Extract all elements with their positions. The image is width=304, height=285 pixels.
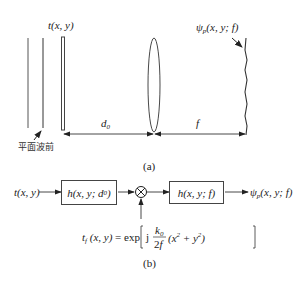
input-label-a: t(x, y) [48, 20, 74, 31]
wavefront-pointer-arrow [34, 131, 41, 140]
caption-b: (b) [143, 258, 156, 269]
lens-function-lhs: tf (x, y) = exp [82, 232, 140, 245]
output-label-b: ψp(x, y; f) [250, 187, 292, 200]
lens-function-j: j [146, 232, 149, 243]
distance-d0-label: d0 [101, 118, 110, 131]
distance-f-label: f [196, 118, 199, 129]
fraction-numerator: k0 [155, 225, 163, 238]
input-label-b: t(x, y) [14, 187, 40, 198]
block-propagation-f: h(x, y; f) [169, 181, 224, 204]
wavefront-label: 平面波前 [18, 143, 54, 152]
output-label-a: ψp(x, y; f) [196, 22, 238, 35]
lens [148, 38, 160, 132]
bracket-left [141, 226, 143, 248]
block-propagation-d0: h(x, y; d0) [61, 180, 117, 205]
lens-function-quadratic: (x2 + y2) [168, 232, 205, 244]
output-pointer-arrow [232, 38, 242, 47]
bracket-right [253, 226, 255, 248]
transparency-plate [62, 37, 65, 130]
caption-a: (a) [143, 161, 155, 172]
fraction-denominator: 2f [154, 239, 163, 250]
output-plane [245, 38, 247, 135]
plane-wavefront-lines [28, 38, 43, 128]
